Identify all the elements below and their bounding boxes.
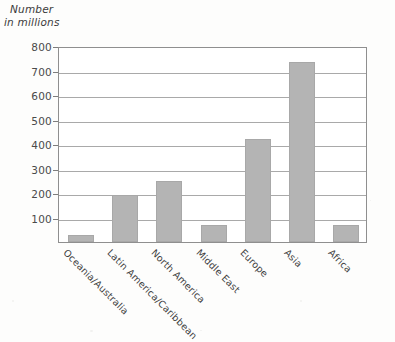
y-axis-tick-mark [53,96,58,97]
y-axis-tick-label: 100 [12,213,52,225]
y-axis-tick-label: 700 [12,66,52,78]
x-axis-label: Africa [326,247,354,275]
y-axis-tick-label: 200 [12,188,52,200]
y-axis-tick-label: 500 [12,115,52,127]
scan-speckle [90,330,93,332]
bar-latin-america-caribbean [112,195,138,242]
scan-speckle [12,300,14,302]
bar-europe [245,139,271,242]
scan-speckle [200,330,202,331]
bar-north-america [156,181,182,242]
y-axis-tick-mark [53,72,58,73]
plot-area [58,47,367,243]
bar-chart-figure: Number in millions 100200300400500600700… [0,0,395,342]
y-axis-tick-mark [53,170,58,171]
y-axis-tick-mark [53,47,58,48]
gridline [59,146,366,147]
y-axis-tick-mark [53,194,58,195]
x-axis-label: Latin America/Caribbean [105,247,199,341]
y-axis-tick-label: 800 [12,41,52,53]
scan-speckle [30,120,31,121]
bar-asia [289,62,315,242]
x-axis-label: Asia [282,247,304,269]
bar-oceania-australia [68,235,94,242]
gridline [59,122,366,123]
scan-speckle [370,200,371,201]
plot-inner [59,48,366,242]
gridline [59,220,366,221]
y-axis-tick-label: 600 [12,90,52,102]
chart-title-line-2: in millions [4,16,124,29]
chart-title-line-1: Number [4,3,124,16]
bar-middle-east [201,225,227,242]
y-axis-tick-mark [53,121,58,122]
gridline [59,97,366,98]
bar-africa [333,225,359,242]
y-axis-tick-label: 400 [12,139,52,151]
chart-title: Number in millions [4,3,124,29]
y-axis-tick-label: 300 [12,164,52,176]
x-axis-label: Middle East [194,247,242,295]
gridline [59,73,366,74]
gridline [59,195,366,196]
scan-speckle [300,300,302,302]
x-axis-label: Europe [238,247,270,279]
scan-speckle [350,40,351,41]
y-axis-tick-mark [53,219,58,220]
gridline [59,171,366,172]
y-axis-tick-mark [53,145,58,146]
